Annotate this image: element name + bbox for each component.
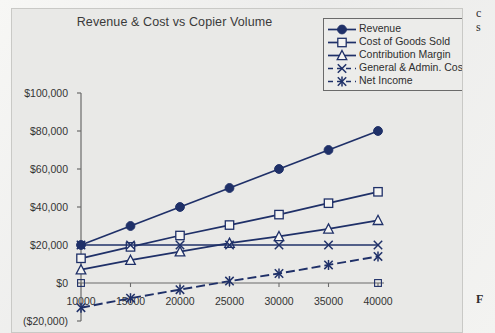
legend-item-label: General & Admin. Costs [357, 61, 463, 74]
series-1 [77, 127, 383, 250]
legend-marker-x-cross-icon [327, 61, 357, 74]
legend-item-3[interactable]: Contribution Margin [327, 48, 463, 61]
legend-item-label: Cost of Goods Sold [357, 35, 450, 48]
chart-inner: Revenue & Cost vs Copier Volume $100,000… [12, 9, 463, 333]
legend-item-2[interactable]: Cost of Goods Sold [327, 35, 463, 48]
legend-item-5[interactable]: Net Income [327, 74, 463, 87]
series-2 [77, 188, 382, 263]
legend-marker-asterisk-icon [327, 74, 357, 87]
legend-marker-open-square-icon [327, 35, 357, 48]
legend-item-4[interactable]: General & Admin. Costs [327, 61, 463, 74]
chart-object[interactable]: Revenue & Cost vs Copier Volume $100,000… [11, 8, 463, 333]
chart-legend[interactable]: RevenueCost of Goods SoldContribution Ma… [323, 18, 463, 91]
page-edge-text-line3: F [476, 292, 495, 307]
legend-item-label: Contribution Margin [357, 48, 451, 61]
legend-marker-open-triangle-icon [327, 48, 357, 61]
series-5 [77, 251, 382, 312]
legend-item-1[interactable]: Revenue [327, 22, 463, 35]
page-edge-text-line2: s [476, 20, 495, 35]
page-edge-text-line1: c [476, 6, 495, 21]
legend-marker-filled-circle-icon [327, 22, 357, 35]
scanned-page: Revenue & Cost vs Copier Volume $100,000… [0, 0, 495, 333]
legend-item-label: Revenue [357, 22, 401, 35]
legend-item-label: Net Income [357, 74, 413, 87]
